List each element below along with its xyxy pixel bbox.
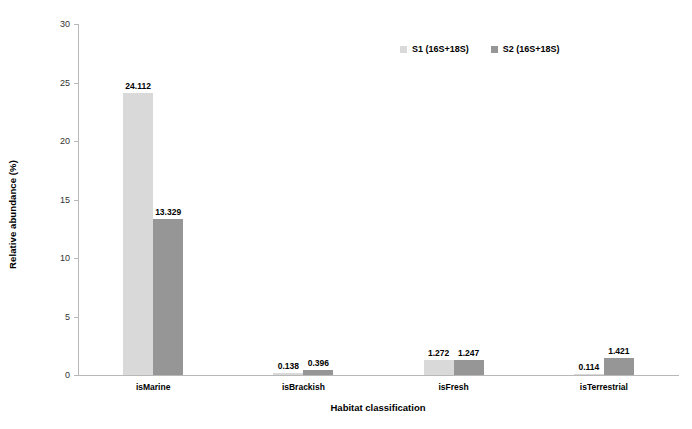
x-axis-title: Habitat classification (78, 402, 678, 413)
bar[interactable] (153, 219, 183, 375)
x-axis-category-label: isMarine (73, 382, 233, 392)
legend-swatch-icon (400, 46, 407, 53)
bar-item[interactable]: 0.138 (273, 24, 303, 375)
y-axis-tick-label: 15 (38, 194, 70, 206)
bar-value-label: 0.396 (288, 358, 348, 368)
bar-group: 1.2721.247isFresh (379, 24, 529, 375)
bar-value-label: 1.421 (589, 346, 649, 356)
bar-group-bars: 1.2721.247 (379, 24, 529, 375)
bar-item[interactable]: 13.329 (153, 24, 183, 375)
y-axis-title: Relative abundance (%) (0, 0, 24, 429)
bar-group-bars: 24.11213.329 (78, 24, 228, 375)
legend-item[interactable]: S1 (16S+18S) (400, 44, 469, 54)
bar[interactable] (273, 373, 303, 375)
plot-area: 051015202530 24.11213.329isMarine0.1380.… (78, 24, 679, 375)
bar-value-label: 13.329 (138, 207, 198, 217)
y-axis-tick-mark (74, 375, 78, 376)
x-axis-category-label: isTerrestrial (524, 382, 684, 392)
y-axis-tick-label: 5 (38, 311, 70, 323)
bar-item[interactable]: 1.421 (604, 24, 634, 375)
legend-item[interactable]: S2 (16S+18S) (491, 44, 560, 54)
bar[interactable] (123, 93, 153, 375)
bar[interactable] (454, 360, 484, 375)
bar[interactable] (424, 360, 454, 375)
bar-group: 24.11213.329isMarine (78, 24, 228, 375)
bar-item[interactable]: 0.114 (574, 24, 604, 375)
y-axis-tick-label: 30 (38, 18, 70, 30)
y-axis-tick-label: 0 (38, 369, 70, 381)
bar-item[interactable]: 24.112 (123, 24, 153, 375)
y-axis-tick-label: 10 (38, 252, 70, 264)
bar-group: 0.1141.421isTerrestrial (529, 24, 679, 375)
bar-group: 0.1380.396isBrackish (228, 24, 378, 375)
bar-group-bars: 0.1380.396 (228, 24, 378, 375)
legend-swatch-icon (491, 46, 498, 53)
x-axis-category-label: isFresh (374, 382, 534, 392)
bar-item[interactable]: 1.272 (424, 24, 454, 375)
legend-label: S2 (16S+18S) (503, 44, 560, 54)
bar[interactable] (604, 358, 634, 375)
chart-legend: S1 (16S+18S)S2 (16S+18S) (400, 44, 560, 54)
x-axis-category-label: isBrackish (223, 382, 383, 392)
legend-label: S1 (16S+18S) (412, 44, 469, 54)
x-axis-line (78, 375, 679, 376)
bar-group-bars: 0.1141.421 (529, 24, 679, 375)
bar-value-label: 1.247 (439, 348, 499, 358)
bar-item[interactable]: 1.247 (454, 24, 484, 375)
y-axis-tick-label: 20 (38, 135, 70, 147)
bar-chart: Relative abundance (%) 051015202530 24.1… (0, 0, 692, 429)
bar-item[interactable]: 0.396 (303, 24, 333, 375)
y-axis-tick-label: 25 (38, 77, 70, 89)
bar[interactable] (303, 370, 333, 375)
bar[interactable] (574, 374, 604, 375)
